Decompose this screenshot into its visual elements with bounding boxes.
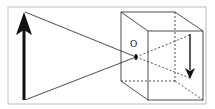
pinhole-camera-diagram: O — [0, 0, 215, 109]
pinhole-label: O — [130, 38, 137, 49]
diagram-frame — [8, 7, 206, 104]
pinhole — [134, 54, 137, 60]
